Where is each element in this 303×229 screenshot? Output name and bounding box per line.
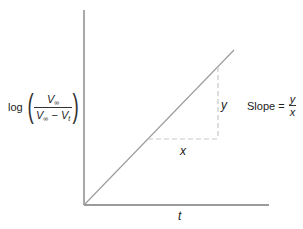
slope-fraction: y x [289,93,297,118]
y-axis-fraction: V∞ V∞ − Vt [34,93,72,122]
slope-annotation: Slope = y x [247,93,294,118]
slope-numerator: y [289,93,297,105]
run-label: x [180,145,186,157]
right-paren: ) [73,88,79,122]
log-text: log [8,101,23,113]
slope-prefix: Slope = [247,100,285,112]
fraction-numerator: V∞ [45,93,61,107]
left-paren: ( [27,88,33,122]
fraction-denominator: V∞ − Vt [34,107,72,122]
x-axis-label: t [178,210,181,222]
data-line [84,50,234,205]
y-axis-label: log ( V∞ V∞ − Vt ) [8,88,82,126]
rise-label: y [221,99,227,111]
slope-denominator: x [289,105,297,118]
